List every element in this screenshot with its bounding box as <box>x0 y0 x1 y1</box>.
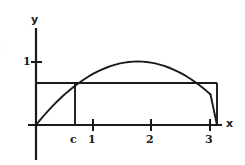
x-tick-label-c: c <box>70 134 77 145</box>
figure-canvas: ) y x 1 c 1 2 3 <box>0 0 245 165</box>
x-tick-label-3: 3 <box>205 134 213 145</box>
parabola-tail <box>211 95 218 126</box>
x-tick-label-2: 2 <box>146 134 154 145</box>
parabola-curve <box>36 62 211 126</box>
problem-number-marker: ) <box>0 40 1 55</box>
y-tick-label-1: 1 <box>23 56 31 67</box>
x-tick-label-1: 1 <box>88 134 96 145</box>
y-axis-label: y <box>31 14 38 25</box>
x-axis-label: x <box>226 118 233 129</box>
